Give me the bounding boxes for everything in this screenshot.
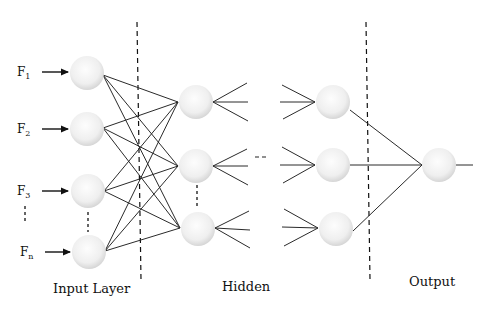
hidden-node — [316, 85, 350, 119]
feature-label: F3 — [17, 184, 30, 200]
hidden-node — [179, 149, 213, 183]
hidden-fan-out-lines — [213, 83, 250, 248]
input-layer-label: Input Layer — [53, 281, 131, 296]
hidden-layer-label: Hidden — [222, 279, 271, 294]
hidden-node — [179, 85, 213, 119]
input-feature-labels: F1 F2 F3 Fn — [17, 65, 33, 261]
input-hidden-connections — [103, 75, 180, 251]
output-layer-label: Output — [409, 274, 456, 289]
input-arrows — [42, 72, 70, 252]
neural-network-diagram: F1 F2 F3 Fn Input Layer Hidden Output — [0, 0, 492, 319]
input-node — [71, 174, 105, 208]
hidden-node — [316, 148, 350, 182]
output-node — [422, 148, 456, 182]
input-node — [70, 56, 104, 90]
input-layer-nodes — [70, 56, 106, 269]
input-node — [70, 112, 104, 146]
hidden-node — [319, 212, 353, 246]
hidden-node — [181, 212, 215, 246]
feature-label: F2 — [17, 122, 30, 138]
feature-label: Fn — [20, 245, 33, 261]
input-node — [72, 235, 106, 269]
hidden-layer-nodes-first — [179, 85, 215, 246]
feature-label: F1 — [17, 65, 30, 81]
hidden-output-separator — [366, 22, 370, 280]
hidden-layer-nodes-last — [316, 85, 353, 246]
hidden-fan-in-lines — [280, 85, 318, 246]
